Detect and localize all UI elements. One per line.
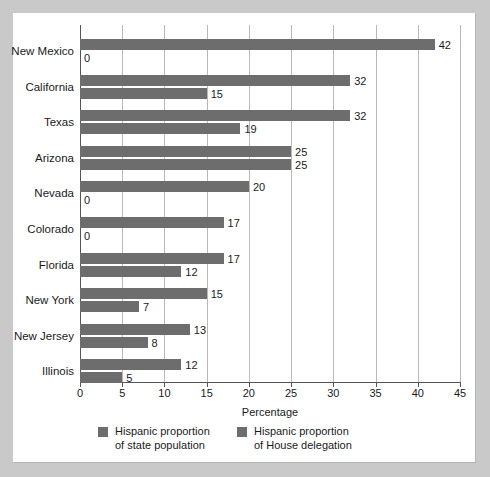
legend-label-line1: Hispanic proportion <box>115 424 210 438</box>
category-label: California <box>10 81 74 93</box>
gridline-40 <box>418 25 419 382</box>
legend-label: Hispanic proportionof House delegation <box>254 424 352 452</box>
tick-label-10: 10 <box>158 387 170 399</box>
tick-label-25: 25 <box>285 387 297 399</box>
tick-label-0: 0 <box>77 387 83 399</box>
bar-value-label: 20 <box>253 182 265 193</box>
bar-value-label: 25 <box>295 160 307 171</box>
bar <box>80 288 207 299</box>
bar-value-label: 7 <box>143 302 149 313</box>
bar <box>80 324 190 335</box>
bar <box>80 88 207 99</box>
chart-figure: 051015202530354045 420321532192525200170… <box>13 13 475 462</box>
bar-value-label: 8 <box>152 338 158 349</box>
x-axis-title: Percentage <box>80 406 460 418</box>
bar-value-label: 32 <box>354 76 366 87</box>
bar <box>80 110 350 121</box>
bar-value-label: 17 <box>228 254 240 265</box>
bar <box>80 359 181 370</box>
bar-value-label: 13 <box>194 325 206 336</box>
legend-swatch <box>237 427 247 437</box>
bar-value-label: 0 <box>84 195 90 206</box>
bar-value-label: 32 <box>354 111 366 122</box>
tick-label-20: 20 <box>243 387 255 399</box>
bar <box>80 146 291 157</box>
bar <box>80 39 435 50</box>
bar-value-label: 19 <box>244 124 256 135</box>
tick-label-15: 15 <box>201 387 213 399</box>
legend-label-line2: of House delegation <box>254 438 352 452</box>
bar <box>80 181 249 192</box>
bar <box>80 337 148 348</box>
gridline-35 <box>376 25 377 382</box>
plot-area: 051015202530354045 420321532192525200170… <box>80 25 460 382</box>
bar <box>80 301 139 312</box>
category-label: New York <box>10 294 74 306</box>
category-label: Texas <box>10 116 74 128</box>
category-label: New Jersey <box>10 330 74 342</box>
tick-label-35: 35 <box>369 387 381 399</box>
bar-value-label: 12 <box>185 360 197 371</box>
category-label: Florida <box>10 259 74 271</box>
bar <box>80 253 224 264</box>
bar <box>80 123 240 134</box>
category-label: Arizona <box>10 152 74 164</box>
bar-value-label: 25 <box>295 147 307 158</box>
bar-value-label: 0 <box>84 231 90 242</box>
x-axis-line <box>80 382 460 383</box>
tick-label-30: 30 <box>327 387 339 399</box>
legend-label: Hispanic proportionof state population <box>115 424 210 452</box>
gridline-45 <box>460 25 461 382</box>
tick-label-5: 5 <box>119 387 125 399</box>
bar-value-label: 15 <box>211 289 223 300</box>
bar <box>80 159 291 170</box>
bar <box>80 217 224 228</box>
bar-value-label: 17 <box>228 218 240 229</box>
category-label: New Mexico <box>10 45 74 57</box>
bar-value-label: 0 <box>84 53 90 64</box>
bar-value-label: 5 <box>126 373 132 384</box>
legend-label-line2: of state population <box>115 438 210 452</box>
bar-value-label: 42 <box>439 40 451 51</box>
category-label: Colorado <box>10 223 74 235</box>
bar <box>80 266 181 277</box>
bar <box>80 75 350 86</box>
category-label: Nevada <box>10 187 74 199</box>
bar-value-label: 12 <box>185 267 197 278</box>
category-label: Illinois <box>10 365 74 377</box>
bar-value-label: 15 <box>211 89 223 100</box>
tick-label-40: 40 <box>412 387 424 399</box>
tick-label-45: 45 <box>454 387 466 399</box>
legend-swatch <box>98 427 108 437</box>
chart-legend: Hispanic proportionof state populationHi… <box>13 425 475 461</box>
legend-label-line1: Hispanic proportion <box>254 424 352 438</box>
bar <box>80 372 122 383</box>
